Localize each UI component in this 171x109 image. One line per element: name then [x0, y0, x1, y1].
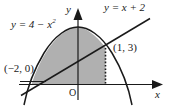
math-figure: y = 4 − x2 y = x + 2 (1, 3) (−2, 0) O x … [0, 0, 171, 109]
left-root-label: (−2, 0) [4, 63, 34, 74]
intersection-point-label: (1, 3) [113, 42, 137, 53]
line-equation-label: y = x + 2 [104, 2, 145, 13]
origin-label: O [69, 88, 76, 98]
parabola-equation-text: y = 4 − x [11, 18, 52, 30]
y-axis-label: y [66, 4, 71, 15]
parabola-exponent: 2 [52, 17, 56, 25]
parabola-equation-label: y = 4 − x2 [11, 18, 56, 30]
figure-canvas [0, 0, 171, 109]
y-axis-arrowhead [74, 8, 83, 20]
x-axis-label: x [155, 89, 160, 100]
